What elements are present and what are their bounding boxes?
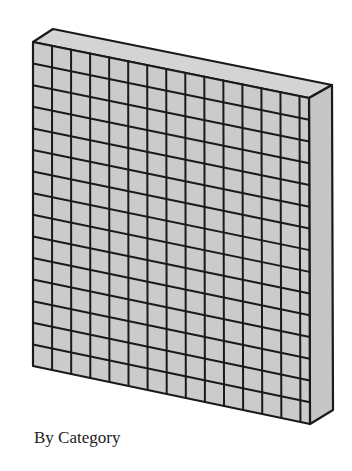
grid-line <box>261 88 262 414</box>
grid-line <box>299 96 300 422</box>
slab-side-face <box>309 85 333 424</box>
grid-line <box>204 77 205 402</box>
slab-shape <box>33 29 333 424</box>
slab-front-face <box>33 42 310 424</box>
diagram-caption: By Category <box>34 428 120 448</box>
grid-line <box>223 81 224 406</box>
grid-line <box>242 84 243 410</box>
grid-line <box>280 92 281 418</box>
grid-slab-diagram <box>0 0 352 471</box>
grid-line <box>185 73 186 398</box>
